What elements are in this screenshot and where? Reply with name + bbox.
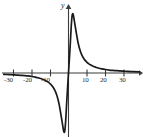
x-tick-label-minus20: -20	[23, 77, 32, 84]
function-graph-figure: -30 -20 -10 10 20 30 y	[0, 0, 143, 137]
x-tick-label-10: 10	[82, 77, 89, 84]
x-tick-label-minus30: -30	[4, 77, 13, 84]
x-tick-label-30: 30	[119, 77, 126, 84]
x-tick-label-20: 20	[100, 77, 107, 84]
curve-overlay	[0, 0, 143, 137]
y-axis-label: y	[61, 2, 65, 10]
function-curve-main	[4, 14, 139, 133]
x-tick-label-minus10: -10	[41, 77, 50, 84]
